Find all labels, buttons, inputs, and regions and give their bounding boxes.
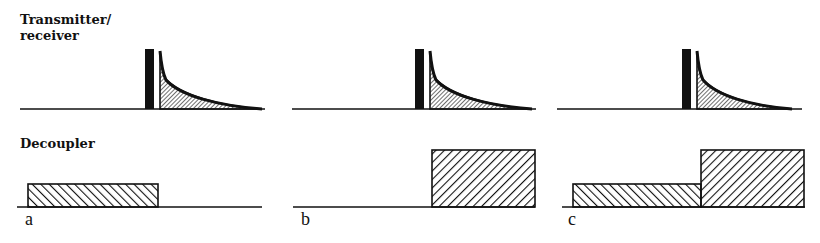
panel-a-decoupler bbox=[17, 184, 262, 207]
transmit-pulse bbox=[682, 49, 691, 109]
decoupler-pulse-high bbox=[432, 150, 535, 207]
panel-c-transmitter bbox=[557, 49, 802, 109]
panel-label-a: a bbox=[25, 209, 33, 230]
panel-b-decoupler bbox=[293, 150, 535, 207]
decoupler-pulse-low bbox=[28, 184, 158, 207]
transmit-pulse bbox=[415, 49, 424, 109]
transmit-pulse bbox=[145, 49, 154, 109]
panel-b-transmitter bbox=[292, 49, 536, 109]
decoupler-pulse-high bbox=[701, 150, 804, 207]
panel-label-c: c bbox=[568, 209, 576, 230]
panel-a-transmitter bbox=[20, 49, 265, 109]
timing-diagram bbox=[0, 0, 820, 243]
decoupler-pulse-low bbox=[573, 184, 701, 207]
panel-label-b: b bbox=[301, 209, 310, 230]
panel-c-decoupler bbox=[562, 150, 805, 207]
